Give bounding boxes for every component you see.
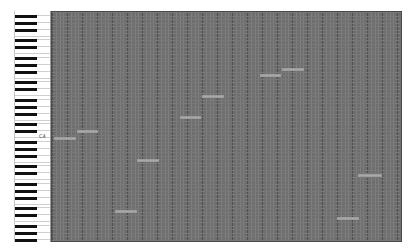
- midi-note[interactable]: [358, 174, 382, 177]
- pitch-row-line: [52, 236, 401, 237]
- pitch-row-line: [52, 44, 401, 45]
- pitch-row-line: [52, 54, 401, 55]
- black-key[interactable]: [15, 239, 37, 242]
- pitch-row-line: [52, 198, 401, 199]
- black-key[interactable]: [15, 22, 37, 25]
- pitch-row-line: [52, 163, 401, 164]
- white-key-divider: [15, 204, 51, 205]
- pitch-row-line: [52, 145, 401, 146]
- piano-keyboard[interactable]: [14, 11, 51, 242]
- pitch-row-line: [52, 16, 401, 17]
- pitch-row-line: [52, 215, 401, 216]
- pitch-row-line: [52, 159, 401, 160]
- midi-note[interactable]: [137, 159, 159, 162]
- black-key[interactable]: [15, 214, 37, 217]
- pitch-row-line: [52, 166, 401, 167]
- pitch-row-line: [52, 65, 401, 66]
- white-key-divider: [15, 162, 51, 163]
- pitch-row-line: [52, 173, 401, 174]
- black-key[interactable]: [15, 57, 37, 60]
- pitch-row-line: [52, 75, 401, 76]
- pitch-row-line: [52, 222, 401, 223]
- black-key[interactable]: [15, 106, 37, 109]
- pitch-row-line: [52, 191, 401, 192]
- white-key-divider: [15, 36, 51, 37]
- pitch-row-line: [52, 103, 401, 104]
- pitch-row-line: [52, 107, 401, 108]
- pitch-row-line: [52, 128, 401, 129]
- black-key[interactable]: [15, 190, 37, 193]
- pitch-row-line: [52, 121, 401, 122]
- midi-note[interactable]: [115, 210, 137, 213]
- black-key[interactable]: [15, 29, 37, 32]
- pitch-row-line: [52, 152, 401, 153]
- pitch-row-line: [52, 170, 401, 171]
- black-key[interactable]: [15, 165, 37, 168]
- pitch-row-line: [52, 180, 401, 181]
- white-key-divider: [15, 53, 51, 54]
- black-key[interactable]: [15, 183, 37, 186]
- black-key[interactable]: [15, 15, 37, 18]
- black-key[interactable]: [15, 172, 37, 175]
- pitch-row-line: [52, 233, 401, 234]
- white-key-divider: [15, 95, 51, 96]
- pitch-row-line: [52, 208, 401, 209]
- pitch-row-line: [52, 96, 401, 97]
- pitch-row-line: [52, 86, 401, 87]
- midi-note[interactable]: [180, 116, 201, 119]
- pitch-row-line: [52, 51, 401, 52]
- white-key-divider: [15, 120, 51, 121]
- black-key[interactable]: [15, 141, 37, 144]
- black-key[interactable]: [15, 207, 37, 210]
- pitch-row-line: [52, 131, 401, 132]
- black-key[interactable]: [15, 225, 37, 228]
- midi-note[interactable]: [54, 137, 76, 140]
- black-key[interactable]: [15, 39, 37, 42]
- midi-note[interactable]: [282, 68, 304, 71]
- midi-note[interactable]: [202, 95, 224, 98]
- pitch-row-line: [52, 156, 401, 157]
- pitch-row-line: [52, 58, 401, 59]
- black-key[interactable]: [15, 130, 37, 133]
- pitch-row-line: [52, 100, 401, 101]
- pitch-row-line: [52, 93, 401, 94]
- pitch-row-line: [52, 114, 401, 115]
- pitch-row-line: [52, 40, 401, 41]
- subdivision-line: [401, 12, 402, 241]
- black-key[interactable]: [15, 64, 37, 67]
- midi-note[interactable]: [337, 217, 359, 220]
- pitch-row-line: [52, 82, 401, 83]
- pitch-row-line: [52, 30, 401, 31]
- c4-key-label: C4: [39, 134, 46, 139]
- black-key[interactable]: [15, 88, 37, 91]
- midi-note[interactable]: [260, 74, 281, 77]
- pitch-row-line: [52, 142, 401, 143]
- pitch-row-line: [52, 89, 401, 90]
- pitch-row-line: [52, 229, 401, 230]
- pitch-row-line: [52, 205, 401, 206]
- black-key[interactable]: [15, 81, 37, 84]
- black-key[interactable]: [15, 148, 37, 151]
- pitch-row-line: [52, 79, 401, 80]
- pitch-row-line: [52, 12, 401, 13]
- midi-note[interactable]: [77, 130, 98, 133]
- pitch-row-line: [52, 33, 401, 34]
- pitch-row-line: [52, 135, 401, 136]
- pitch-row-line: [52, 117, 401, 118]
- black-key[interactable]: [15, 99, 37, 102]
- pitch-row-line: [52, 240, 401, 241]
- black-key[interactable]: [15, 113, 37, 116]
- black-key[interactable]: [15, 232, 37, 235]
- pitch-row-line: [52, 68, 401, 69]
- black-key[interactable]: [15, 46, 37, 49]
- black-key[interactable]: [15, 155, 37, 158]
- black-key[interactable]: [15, 197, 37, 200]
- pitch-row-line: [52, 61, 401, 62]
- pitch-row-line: [52, 187, 401, 188]
- black-key[interactable]: [15, 123, 37, 126]
- pitch-row-line: [52, 23, 401, 24]
- black-key[interactable]: [15, 71, 37, 74]
- note-grid[interactable]: [51, 11, 402, 242]
- white-key-divider: [15, 78, 51, 79]
- pitch-row-line: [52, 72, 401, 73]
